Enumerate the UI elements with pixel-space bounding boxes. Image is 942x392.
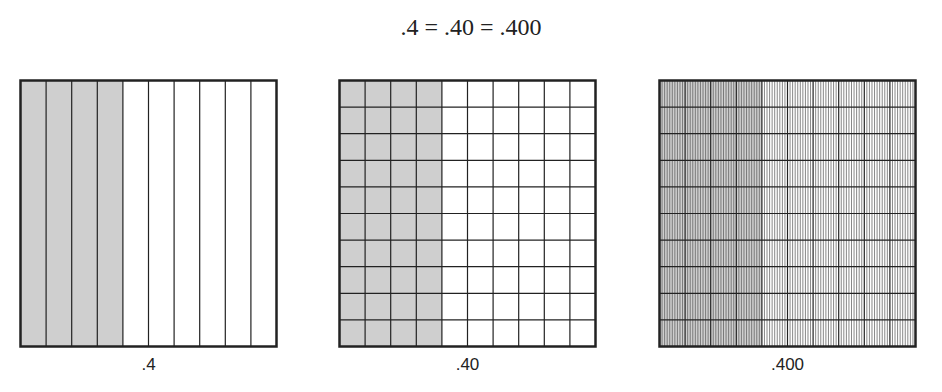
hundredths-label: .40: [338, 355, 597, 375]
tenths-grid: [19, 79, 278, 348]
thousandths-grid-svg: [658, 79, 917, 348]
tenths-label: .4: [19, 355, 278, 375]
hundredths-grid-svg: [338, 79, 597, 348]
tenths-grid-svg: [19, 79, 278, 348]
hundredths-grid: [338, 79, 597, 348]
thousandths-label: .400: [658, 355, 917, 375]
equation-title: .4 = .40 = .400: [0, 14, 942, 41]
thousandths-grid: [658, 79, 917, 348]
